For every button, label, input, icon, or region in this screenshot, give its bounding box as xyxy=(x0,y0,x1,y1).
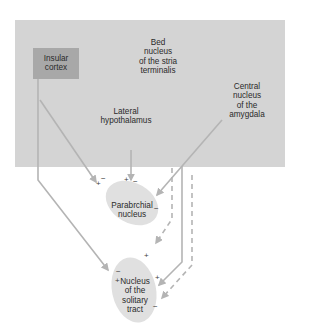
lateral-hypothalamus-label: Lateral hypothalamus xyxy=(96,107,156,126)
insular-cortex-label: Insular cortex xyxy=(33,54,79,73)
sign-pb-top-mid-minus: − xyxy=(133,178,138,186)
sign-pb-top-left-plus: + xyxy=(96,180,101,188)
sign-nts-right-plus: + xyxy=(155,274,160,282)
sign-nts-left-plus: + xyxy=(115,277,120,285)
sign-pb-top-mid-plus: + xyxy=(124,176,129,184)
central-amygdala-label: Central nucleus of the amygdala xyxy=(222,82,272,120)
sign-nts-left-minus: − xyxy=(116,268,121,276)
parabrachial-nucleus-label: Parabrchial nucleus xyxy=(102,201,162,220)
arrow-forebrain-to-nts xyxy=(162,175,192,298)
sign-pb-top-left-minus: − xyxy=(101,175,106,183)
sign-nts-right-minus: − xyxy=(153,303,158,311)
arrow-cea-to-nts xyxy=(159,166,182,285)
bed-nucleus-label: Bed nucleus of the stria terminalis xyxy=(128,38,188,76)
sign-pb-right-minus: − xyxy=(154,205,159,213)
sign-nts-top-plus: + xyxy=(144,252,149,260)
